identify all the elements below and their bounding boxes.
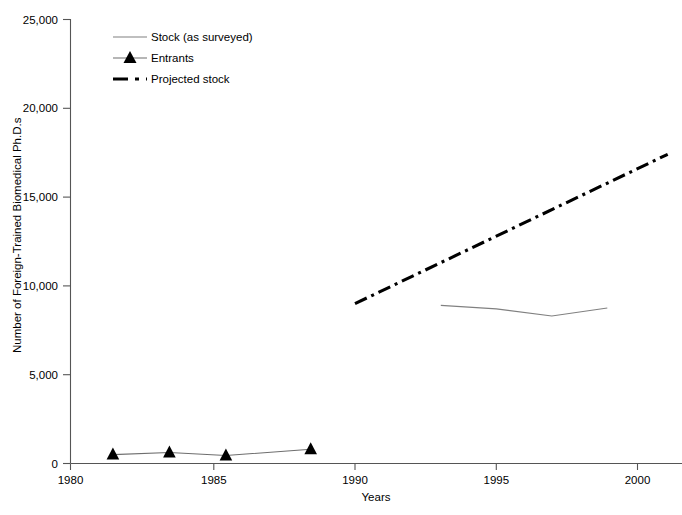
y-tick-label-25000: 25,000	[23, 14, 58, 26]
x-tick-label-2000: 2000	[625, 474, 651, 486]
projected-stock-line	[355, 154, 668, 303]
legend-label-stock: Stock (as surveyed)	[151, 31, 253, 43]
x-axis-title: Years	[362, 491, 391, 503]
y-tick-label-0: 0	[52, 458, 58, 470]
legend-label-projected-stock: Projected stock	[151, 73, 230, 85]
entrants-line	[113, 449, 311, 455]
chart-container: 25,000 20,000 15,000 10,000 5,000 0 1980…	[0, 0, 682, 515]
legend-item-stock[interactable]: Stock (as surveyed)	[113, 31, 253, 43]
series-entrants	[107, 442, 317, 460]
y-tick-label-15000: 15,000	[23, 191, 58, 203]
series-stock	[441, 305, 608, 316]
y-tick-label-20000: 20,000	[23, 102, 58, 114]
entrants-marker-3	[220, 448, 233, 460]
legend-item-entrants[interactable]: Entrants	[113, 51, 194, 64]
legend-swatch-triangle-icon	[124, 51, 137, 63]
x-tick-label-1985: 1985	[201, 474, 227, 486]
x-tick-label-1995: 1995	[484, 474, 510, 486]
x-tick-label-1990: 1990	[342, 474, 368, 486]
legend: Stock (as surveyed) Entrants Projected s…	[113, 31, 253, 85]
series-projected-stock	[355, 154, 668, 303]
entrants-marker-1	[107, 448, 120, 460]
legend-label-entrants: Entrants	[151, 52, 194, 64]
y-tick-labels: 25,000 20,000 15,000 10,000 5,000 0	[23, 14, 58, 470]
chart-svg: 25,000 20,000 15,000 10,000 5,000 0 1980…	[0, 0, 682, 515]
x-tick-labels: 1980 1985 1990 1995 2000	[58, 474, 651, 486]
legend-item-projected-stock[interactable]: Projected stock	[113, 73, 230, 85]
y-tick-label-10000: 10,000	[23, 280, 58, 292]
y-axis-title: Number of Foreign-Trained Biomedical Ph.…	[11, 117, 23, 353]
stock-line	[441, 305, 608, 316]
x-tick-label-1980: 1980	[58, 474, 84, 486]
y-tick-label-5000: 5,000	[29, 369, 58, 381]
axis-group	[63, 19, 682, 470]
entrants-marker-4	[304, 442, 317, 454]
entrants-marker-2	[163, 445, 176, 457]
